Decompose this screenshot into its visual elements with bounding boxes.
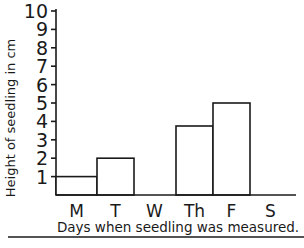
y-axis-label: Height of seedling in cm bbox=[3, 39, 18, 197]
x-tick-label-f: F bbox=[227, 201, 237, 221]
x-tick-label-s: S bbox=[265, 201, 276, 221]
y-tick-label: 10 bbox=[24, 0, 48, 22]
bars bbox=[56, 103, 250, 195]
bar-f bbox=[213, 103, 250, 195]
y-axis: 12345678910 bbox=[24, 0, 56, 195]
bar-t bbox=[97, 158, 134, 195]
seedling-height-bar-chart: 12345678910 MTWThFS Height of seedling i… bbox=[0, 0, 304, 248]
x-tick-label-th: Th bbox=[183, 201, 205, 221]
bar-th bbox=[176, 126, 213, 195]
x-tick-label-m: M bbox=[69, 201, 84, 221]
x-axis-label: Days when seedling was measured. bbox=[57, 219, 299, 235]
x-axis: MTWThFS bbox=[56, 195, 296, 221]
bar-m bbox=[56, 177, 97, 195]
x-tick-label-t: T bbox=[109, 201, 121, 221]
x-tick-label-w: W bbox=[146, 201, 163, 221]
